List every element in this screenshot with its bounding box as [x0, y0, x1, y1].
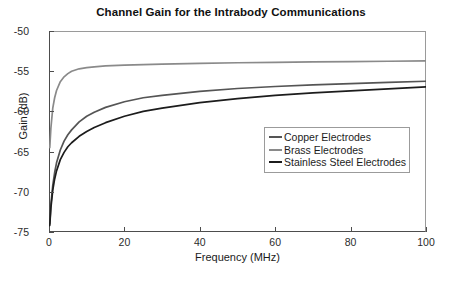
- legend-swatch-stainless: [269, 161, 282, 163]
- chart-title: Channel Gain for the Intrabody Communica…: [0, 6, 462, 18]
- x-tick-mark: [124, 227, 125, 232]
- x-tick-label: 40: [180, 236, 220, 248]
- legend-item[interactable]: Copper Electrodes: [269, 131, 405, 144]
- y-tick-mark: [49, 192, 54, 193]
- legend-swatch-copper: [269, 136, 282, 138]
- legend-swatch-brass: [269, 149, 282, 151]
- chart-legend: Copper Electrodes Brass Electrodes Stain…: [264, 127, 410, 173]
- x-tick-mark: [275, 227, 276, 232]
- x-tick-label: 100: [406, 236, 446, 248]
- x-tick-mark: [49, 227, 50, 232]
- x-tick-mark: [200, 227, 201, 232]
- x-tick-mark: [426, 227, 427, 232]
- x-tick-mark: [351, 227, 352, 232]
- x-tick-label: 80: [331, 236, 371, 248]
- x-axis-label: Frequency (MHz): [49, 251, 426, 263]
- figure-caption: [6, 274, 456, 283]
- x-tick-label: 60: [255, 236, 295, 248]
- x-tick-label: 0: [29, 236, 69, 248]
- y-tick-mark: [49, 232, 54, 233]
- y-tick-mark: [49, 31, 54, 32]
- y-tick-label: -75: [0, 226, 29, 238]
- chart-figure: Channel Gain for the Intrabody Communica…: [0, 0, 462, 283]
- legend-item[interactable]: Stainless Steel Electrodes: [269, 156, 405, 169]
- legend-label-brass: Brass Electrodes: [284, 144, 363, 157]
- y-tick-label: -60: [0, 105, 29, 117]
- legend-item[interactable]: Brass Electrodes: [269, 144, 405, 157]
- legend-label-copper: Copper Electrodes: [284, 131, 371, 144]
- legend-label-stainless: Stainless Steel Electrodes: [284, 156, 406, 169]
- y-tick-label: -55: [0, 65, 29, 77]
- y-tick-label: -65: [0, 146, 29, 158]
- y-tick-label: -70: [0, 186, 29, 198]
- y-tick-label: -50: [0, 25, 29, 37]
- y-tick-mark: [49, 152, 54, 153]
- x-tick-label: 20: [104, 236, 144, 248]
- y-tick-mark: [49, 111, 54, 112]
- y-tick-mark: [49, 71, 54, 72]
